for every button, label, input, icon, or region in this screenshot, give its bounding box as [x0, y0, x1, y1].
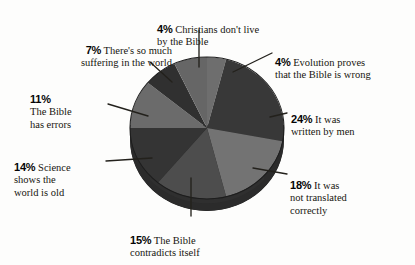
callout-bible-contradicts-itself: 15% The Bible contradicts itself [130, 221, 280, 260]
callout-suffering-in-world: 7% There's so much suffering in the worl… [22, 31, 172, 70]
pie-chart-figure: 4% Christians don't live by the Bible 4%… [0, 0, 415, 265]
callout-evolution-proves: 4% Evolution proves that the Bible is wr… [275, 43, 415, 82]
callout-written-by-men: 24% It was written by men [291, 100, 415, 139]
callout-percent: 7% [86, 44, 102, 56]
callout-percent: 15% [130, 234, 151, 246]
callout-percent: 24% [291, 113, 312, 125]
callout-percent: 4% [275, 56, 291, 68]
callout-bible-has-errors: 11% The Bible has errors [30, 80, 116, 131]
callout-percent: 18% [290, 179, 311, 191]
callout-science-shows-world-old: 14% Science shows the world is old [14, 148, 114, 199]
leader-line-evolution [233, 53, 272, 72]
callout-percent: 14% [14, 161, 35, 173]
callout-percent: 11% [30, 93, 51, 105]
callout-text: Christians don't live by the Bible [157, 24, 259, 48]
pie-slices [130, 57, 284, 199]
callout-not-translated-correctly: 18% It was not translated correctly [290, 166, 415, 217]
callout-text: The Bible has errors [30, 106, 72, 130]
